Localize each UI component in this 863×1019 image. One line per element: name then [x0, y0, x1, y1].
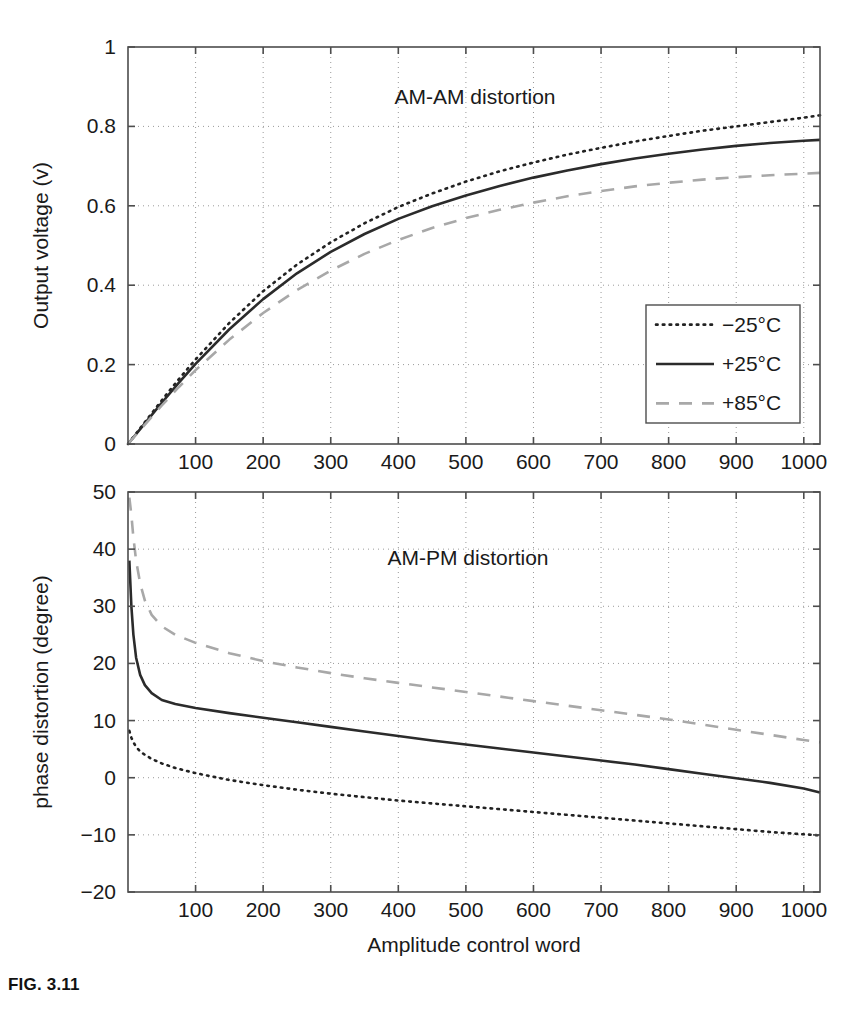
y-tick-label: 0.6: [87, 194, 116, 217]
legend-label: +85°C: [722, 391, 781, 414]
y-tick-label: −20: [80, 880, 116, 903]
x-tick-label: 500: [448, 450, 483, 473]
x-tick-label: 1000: [780, 898, 827, 921]
x-tick-label: 500: [448, 898, 483, 921]
x-tick-label: 800: [651, 898, 686, 921]
y-tick-label: 20: [93, 651, 116, 674]
series-line-25C: [129, 561, 820, 793]
figure-container: 100200300400500600700800900100000.20.40.…: [0, 0, 863, 1019]
y-tick-label: 50: [93, 480, 116, 503]
y-tick-label: 1: [104, 35, 116, 58]
y-tick-label: 0.8: [87, 114, 116, 137]
x-tick-label: 400: [381, 898, 416, 921]
x-tick-label: 200: [246, 898, 281, 921]
figure-svg: 100200300400500600700800900100000.20.40.…: [0, 0, 863, 1019]
x-tick-label: 600: [516, 898, 551, 921]
x-tick-label: 600: [516, 450, 551, 473]
x-tick-label: 800: [651, 450, 686, 473]
panel-title: AM-AM distortion: [394, 85, 555, 108]
x-tick-label: 700: [584, 898, 619, 921]
y-tick-label: 0.4: [87, 273, 117, 296]
figure-caption: FIG. 3.11: [8, 975, 80, 995]
legend-label: +25°C: [722, 352, 781, 375]
y-tick-label: 0.2: [87, 353, 116, 376]
x-tick-label: 900: [719, 898, 754, 921]
x-tick-label: 100: [178, 898, 213, 921]
x-tick-label: 100: [178, 450, 213, 473]
x-tick-label: 1000: [780, 450, 827, 473]
x-tick-label: 900: [719, 450, 754, 473]
y-tick-label: 0: [104, 432, 116, 455]
am-pm-panel: 1002003004005006007008009001000−20−10010…: [29, 480, 827, 956]
y-tick-label: 10: [93, 709, 116, 732]
y-tick-label: 30: [93, 594, 116, 617]
y-tick-label: −10: [80, 823, 116, 846]
legend-label: −25°C: [722, 313, 781, 336]
x-axis-title: Amplitude control word: [367, 933, 581, 956]
y-axis-title: phase distortion (degree): [29, 575, 52, 808]
am-am-panel: 100200300400500600700800900100000.20.40.…: [29, 35, 827, 473]
y-axis-title: Output voltage (v): [29, 162, 52, 329]
x-tick-label: 400: [381, 450, 416, 473]
panel-title: AM-PM distortion: [387, 546, 548, 569]
x-tick-label: 700: [584, 450, 619, 473]
x-tick-label: 300: [313, 898, 348, 921]
series-line-85C: [129, 498, 820, 743]
y-tick-label: 40: [93, 537, 116, 560]
y-tick-label: 0: [104, 766, 116, 789]
x-tick-label: 200: [246, 450, 281, 473]
x-tick-label: 300: [313, 450, 348, 473]
